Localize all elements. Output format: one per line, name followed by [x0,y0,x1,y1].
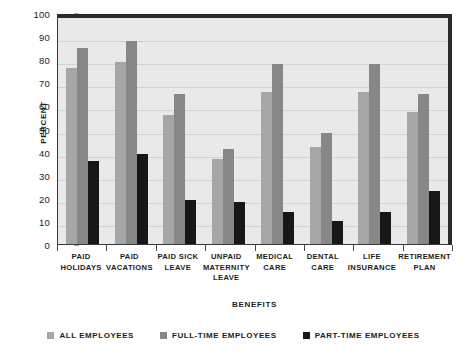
bar [407,112,418,244]
x-axis-tick-mark [205,245,206,251]
y-axis-tick-label: 70 [22,78,50,89]
legend-label: Part-time Employees [315,331,420,340]
y-axis-tick-label: 40 [22,147,50,158]
legend-swatch-icon [303,332,310,339]
x-axis-tick-mark [304,245,305,251]
bar [358,92,369,244]
x-axis-title: Benefits [57,300,452,309]
bar [380,212,391,244]
y-axis-tick-label: 80 [22,55,50,66]
x-axis-category-label: Paid Holidays [57,252,105,298]
legend-item[interactable]: Full-time Employees [160,331,277,340]
y-axis-tick-labels: 0102030405060708090100 [22,14,50,245]
x-axis-tick-mark [255,245,256,251]
bar [418,94,429,244]
y-axis-tick-label: 10 [22,216,50,227]
bar [185,200,196,244]
x-axis-category-label: Unpaid maternity Leave [202,252,251,298]
bar-group [399,18,448,244]
bar [212,159,223,244]
bar [115,62,126,244]
legend-swatch-icon [160,332,167,339]
x-axis-category-label: Medical Care [251,252,299,298]
bar-group [107,18,156,244]
bar [321,133,332,244]
bar-group [204,18,253,244]
bar [174,94,185,244]
x-axis-category-label: Paid Vacations [105,252,154,298]
bar-group [156,18,205,244]
y-axis-tick-label: 0 [22,240,50,251]
x-axis-tick-mark [106,245,107,251]
bar [234,202,245,244]
x-axis-tick-mark [156,245,157,251]
bar [369,64,380,244]
bar [310,147,321,244]
x-axis-category-label: Life Insurance [347,252,397,298]
x-axis-category-label: Paid Sick Leave [154,252,202,298]
x-axis-tick-mark [452,245,453,251]
bar [88,161,99,244]
x-axis-tick-mark [403,245,404,251]
bar [163,115,174,244]
legend-item[interactable]: All Employees [47,331,134,340]
plot-area [57,14,452,245]
bar [429,191,440,244]
bar-groups [58,18,448,244]
x-axis-tick-marks [57,245,452,251]
y-axis-tick-label: 60 [22,101,50,112]
x-axis-tick-labels: Paid HolidaysPaid VacationsPaid Sick Lea… [57,252,452,298]
bar [283,212,294,244]
x-axis-tick-mark [353,245,354,251]
legend-item[interactable]: Part-time Employees [303,331,420,340]
legend-label: Full-time Employees [172,331,277,340]
legend-swatch-icon [47,332,54,339]
bar-group [302,18,351,244]
x-axis-category-label: Dental Care [299,252,347,298]
y-axis-tick-label: 100 [22,9,50,20]
bar [332,221,343,244]
bar [77,48,88,244]
bar [261,92,272,244]
bar [137,154,148,244]
bar [272,64,283,244]
bar [66,68,77,244]
chart-legend: All EmployeesFull-time EmployeesPart-tim… [0,331,467,340]
x-axis-category-label: Retirement Plan [397,252,452,298]
y-axis-tick-label: 90 [22,32,50,43]
bar-chart-figure: Percent 0102030405060708090100 Paid Holi… [0,0,467,353]
bar [126,41,137,244]
y-axis-tick-label: 50 [22,124,50,135]
y-axis-tick-label: 30 [22,170,50,181]
x-axis-tick-mark [57,245,58,251]
bar [223,149,234,244]
bar-group [58,18,107,244]
y-axis-tick-label: 20 [22,193,50,204]
bar-group [351,18,400,244]
legend-label: All Employees [59,331,134,340]
bar-group [253,18,302,244]
